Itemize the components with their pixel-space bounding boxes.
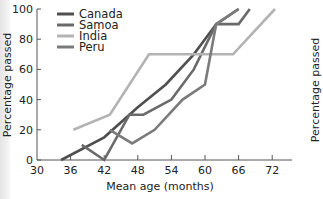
y-axis-title-right: Percentage passed [309, 38, 322, 142]
x-axis-title: Mean age (months) [106, 180, 213, 193]
legend-label-peru: Peru [79, 40, 105, 54]
y-tick-label: 40 [19, 94, 33, 107]
x-tick-label: 60 [198, 164, 212, 177]
x-tick-label: 66 [232, 164, 246, 177]
x-tick-label: 54 [164, 164, 178, 177]
line-chart: 020406080100 3036424854606672 Canada Sam… [0, 0, 323, 199]
x-tick-label: 30 [30, 164, 44, 177]
y-tick-label: 100 [12, 3, 33, 16]
y-tick-label: 60 [19, 63, 33, 76]
x-tick-label: 36 [64, 164, 78, 177]
y-tick-label: 80 [19, 33, 33, 46]
legend: Canada Samoa India Peru [57, 7, 123, 54]
x-tick-label: 42 [97, 164, 111, 177]
y-tick-label: 20 [19, 124, 33, 137]
x-tick-label: 72 [265, 164, 279, 177]
y-axis-title: Percentage passed [1, 33, 14, 137]
x-tick-label: 48 [131, 164, 145, 177]
x-ticks: 3036424854606672 [30, 155, 279, 177]
